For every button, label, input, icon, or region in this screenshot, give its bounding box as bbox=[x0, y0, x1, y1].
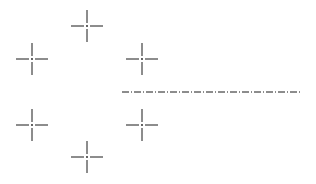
crosshair-mark-lower-right bbox=[126, 109, 158, 141]
crosshair-mark-upper-right bbox=[126, 43, 158, 75]
crosshair-mark-bottom bbox=[71, 141, 103, 173]
crosshair-mark-top bbox=[71, 10, 103, 42]
diagram-canvas bbox=[0, 0, 316, 184]
crosshair-mark-lower-left bbox=[16, 109, 48, 141]
diagram-svg bbox=[0, 0, 316, 184]
crosshair-mark-upper-left bbox=[16, 43, 48, 75]
